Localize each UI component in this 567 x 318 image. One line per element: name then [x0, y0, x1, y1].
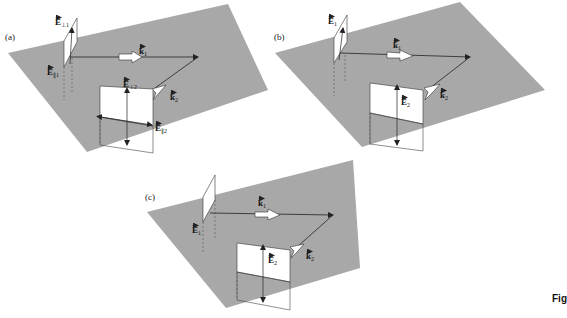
- panel-label: (b): [274, 32, 285, 42]
- interface-plane: [8, 4, 268, 152]
- label-e-perp1: E⊥1: [55, 17, 69, 28]
- panel-c: (c) E1 k1 k2 E2: [145, 160, 360, 310]
- panel-b: (b) E1 k1 k2 E2: [274, 2, 545, 151]
- figure-caption: Fig: [552, 293, 567, 304]
- figure-canvas: (a) E⊥1 E∥1 k1 k2 E⊥2 E∥2 (b): [0, 0, 567, 318]
- panel-label: (a): [5, 32, 15, 42]
- interface-plane: [147, 160, 360, 308]
- panel-label: (c): [145, 192, 155, 202]
- interface-plane: [275, 2, 545, 147]
- panel-a: (a) E⊥1 E∥1 k1 k2 E⊥2 E∥2: [5, 4, 268, 153]
- label-e1: E1: [328, 16, 337, 27]
